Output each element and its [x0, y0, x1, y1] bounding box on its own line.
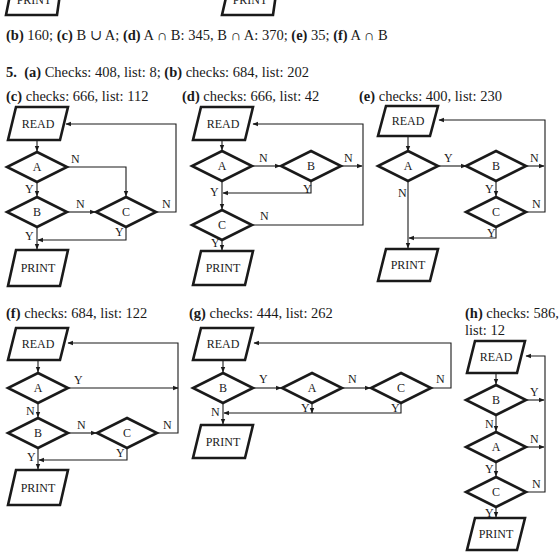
h-label: N — [530, 432, 539, 446]
h-print-label: PRINT — [479, 527, 514, 541]
d-decision-2-label: B — [307, 159, 315, 173]
flowchart-f: READABCPRINTYNNYNY — [8, 328, 178, 505]
flowchart-g: READBACPRINTYNNYNY — [193, 328, 451, 458]
c-label: N — [71, 152, 80, 166]
c-label: Y — [25, 182, 34, 196]
f-decision-3-label: C — [123, 426, 131, 440]
e-decision-2-label: B — [492, 159, 500, 173]
d-label: N — [260, 209, 269, 223]
flowchart-e: READABCPRINTYNNYNY — [378, 106, 545, 281]
f-label: Y — [74, 373, 83, 387]
d-decision-3-label: C — [218, 218, 226, 232]
g-decision-2-label: A — [308, 381, 317, 395]
d-print-label: PRINT — [206, 261, 241, 275]
g-label: N — [436, 372, 445, 386]
connector — [526, 356, 545, 492]
h-decision-1-label: B — [492, 393, 500, 407]
connector — [67, 167, 126, 196]
c-decision-1-label: A — [33, 160, 42, 174]
flowchart-h: READBACPRINTYNNYNY — [466, 341, 545, 550]
h-label: Y — [485, 462, 494, 476]
g-decision-1-label: B — [219, 381, 227, 395]
e-label: Y — [444, 151, 453, 165]
e-label: N — [532, 197, 541, 211]
f-label: N — [26, 404, 35, 418]
g-label: Y — [259, 372, 268, 386]
f-label: N — [77, 418, 86, 432]
connector — [223, 181, 311, 193]
g-decision-3-label: C — [397, 381, 405, 395]
f-decision-2-label: B — [34, 426, 42, 440]
e-decision-3-label: C — [492, 205, 500, 219]
e-label: Y — [485, 182, 494, 196]
top-partial-print-boxes: PRINTPRINT — [6, 0, 278, 15]
connector — [409, 227, 496, 238]
d-label: Y — [211, 236, 220, 250]
d-label: Y — [303, 182, 312, 196]
c-label: Y — [25, 229, 34, 243]
h-decision-3-label: C — [492, 485, 500, 499]
c-label: Y — [115, 225, 124, 239]
d-label: N — [259, 151, 268, 165]
d-decision-1-label: A — [218, 159, 227, 173]
c-label: N — [162, 197, 171, 211]
d-label: Y — [210, 185, 219, 199]
h-label: N — [532, 477, 541, 491]
f-decision-1-label: A — [34, 381, 43, 395]
h-read-label: READ — [480, 350, 513, 364]
e-label: N — [530, 151, 539, 165]
f-label: N — [163, 418, 172, 432]
connector — [38, 227, 126, 240]
g-label: Y — [301, 401, 310, 415]
f-print-label: PRINT — [21, 481, 56, 495]
c-decision-2-label: B — [33, 205, 41, 219]
h-label: N — [485, 417, 494, 431]
svg-text:PRINT: PRINT — [233, 0, 268, 7]
e-print-label: PRINT — [391, 258, 426, 272]
e-decision-1-label: A — [404, 159, 413, 173]
f-read-label: READ — [22, 337, 55, 351]
h-decision-2-label: A — [492, 440, 501, 454]
g-label: Y — [391, 401, 400, 415]
flowchart-c: READABCPRINTNYNYNY — [7, 107, 176, 286]
e-label: Y — [487, 226, 496, 240]
c-label: N — [76, 197, 85, 211]
c-print-label: PRINT — [21, 261, 56, 275]
d-read-label: READ — [207, 117, 240, 131]
e-read-label: READ — [392, 114, 425, 128]
d-label: N — [344, 151, 353, 165]
c-read-label: READ — [22, 117, 55, 131]
flowchart-d: READABCPRINTNYNYNY — [192, 107, 363, 285]
g-read-label: READ — [207, 337, 240, 351]
e-label: N — [398, 186, 407, 200]
f-label: Y — [27, 450, 36, 464]
g-label: N — [211, 405, 220, 419]
f-label: Y — [116, 446, 125, 460]
g-label: N — [348, 372, 357, 386]
c-decision-3-label: C — [122, 205, 130, 219]
connector — [39, 448, 127, 460]
h-label: Y — [530, 385, 539, 399]
h-label: Y — [485, 506, 494, 520]
g-print-label: PRINT — [206, 435, 241, 449]
svg-text:PRINT: PRINT — [17, 0, 52, 7]
